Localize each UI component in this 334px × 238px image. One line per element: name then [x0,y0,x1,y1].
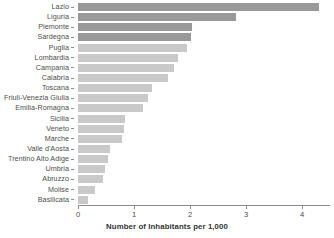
bar [78,84,152,92]
bar [78,64,174,72]
x-tick-mark [302,205,303,209]
bar [78,13,236,21]
bar-chart: LazioLiguriaPiemonteSardegnaPugliaLombar… [0,0,334,238]
bar-row [78,164,330,174]
bar-row [78,43,330,53]
y-tick-mark [71,67,74,68]
bar [78,155,108,163]
y-tick-mark [71,159,74,160]
bar-row [78,32,330,42]
bar [78,33,191,41]
bar-row [78,195,330,205]
y-axis-tick-label: Calabria [0,73,74,83]
bar [78,135,122,143]
x-axis-title: Number of Inhabitants per 1,000 [0,222,334,231]
y-tick-mark [71,37,74,38]
bar-row [78,93,330,103]
x-tick-label: 3 [244,210,248,219]
y-axis-tick-label: Emilia-Romagna [0,103,74,113]
category-label-text: Trentino Alto Adige [8,155,69,163]
x-tick-label: 1 [132,210,136,219]
category-label-text: Emilia-Romagna [15,104,69,112]
y-axis-tick-label: Trentino Alto Adige [0,154,74,164]
x-tick-label: 2 [188,210,192,219]
x-tick-label: 0 [76,210,80,219]
bar [78,175,103,183]
y-axis-tick-label: Basilicata [0,195,74,205]
y-axis-tick-label: Sicilia [0,114,74,124]
y-axis-tick-label: Umbria [0,164,74,174]
y-tick-mark [71,149,74,150]
y-tick-mark [71,128,74,129]
y-axis-tick-label: Friuli-Venezia Giulia [0,93,74,103]
category-label-text: Campania [36,64,69,72]
category-label-text: Puglia [49,44,69,52]
category-label-text: Veneto [46,125,69,133]
y-tick-mark [71,118,74,119]
y-axis-tick-label: Puglia [0,43,74,53]
category-label-text: Sardegna [37,33,69,41]
y-tick-mark [71,138,74,139]
bar [78,54,178,62]
x-axis-line [78,205,330,206]
bar-row [78,144,330,154]
y-tick-mark [71,179,74,180]
bar [78,104,143,112]
bar [78,125,124,133]
category-label-text: Liguria [47,13,69,21]
y-tick-mark [71,98,74,99]
y-tick-mark [71,88,74,89]
bar-row [78,53,330,63]
y-axis-category-labels: LazioLiguriaPiemonteSardegnaPugliaLombar… [0,2,74,205]
y-axis-tick-label: Molise [0,185,74,195]
y-axis-tick-label: Piemonte [0,22,74,32]
plot-area [78,2,330,205]
category-label-text: Umbria [46,165,69,173]
bar-row [78,174,330,184]
y-axis-tick-label: Abruzzo [0,174,74,184]
category-label-text: Lazio [52,3,69,11]
category-label-text: Valle d'Aosta [27,145,69,153]
y-tick-mark [71,27,74,28]
bar-row [78,83,330,93]
y-tick-mark [71,78,74,79]
bar [78,145,110,153]
bar-row [78,114,330,124]
bar [78,23,192,31]
bar-row [78,73,330,83]
y-axis-tick-label: Liguria [0,12,74,22]
bar [78,94,148,102]
bar-row [78,103,330,113]
y-tick-mark [71,199,74,200]
x-tick-label: 4 [300,210,304,219]
category-label-text: Toscana [42,84,69,92]
y-tick-mark [71,169,74,170]
bar-row [78,134,330,144]
bar-row [78,185,330,195]
y-axis-tick-label: Sardegna [0,32,74,42]
category-label-text: Sicilia [50,115,69,123]
y-axis-tick-label: Veneto [0,124,74,134]
category-label-text: Lombardia [35,54,69,62]
y-axis-tick-label: Campania [0,63,74,73]
category-label-text: Molise [48,186,69,194]
x-tick-mark [190,205,191,209]
y-tick-mark [71,57,74,58]
category-label-text: Basilicata [38,196,69,204]
bar [78,186,95,194]
bar [78,115,125,123]
bar [78,44,187,52]
category-label-text: Calabria [42,74,69,82]
bar-row [78,2,330,12]
y-tick-mark [71,47,74,48]
y-tick-mark [71,108,74,109]
bar [78,196,88,204]
bar-row [78,63,330,73]
category-label-text: Marche [45,135,69,143]
y-axis-tick-label: Lombardia [0,53,74,63]
x-tick-mark [78,205,79,209]
bar-row [78,12,330,22]
x-tick-mark [246,205,247,209]
y-tick-mark [71,189,74,190]
y-tick-mark [71,17,74,18]
